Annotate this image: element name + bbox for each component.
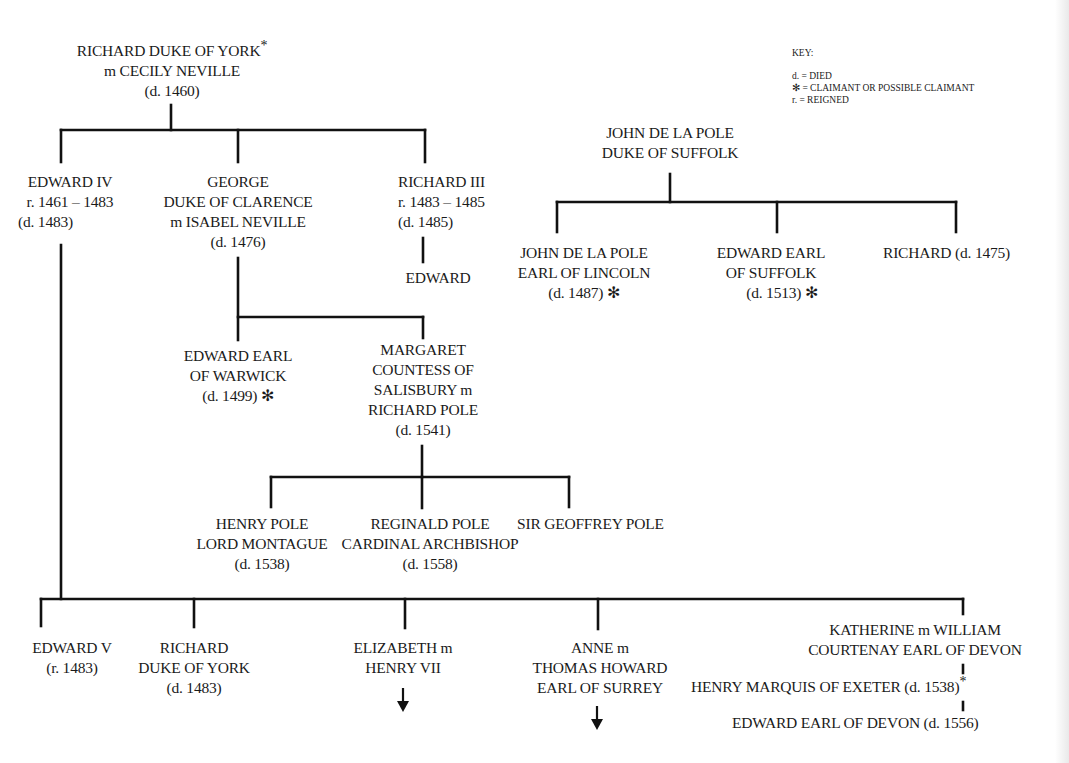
dates-line: (d. 1499) ✻ <box>164 386 312 406</box>
title-line: OF WARWICK <box>164 366 312 386</box>
name-line: EDWARD <box>394 268 482 288</box>
title-line: COUNTESS OF <box>348 360 498 380</box>
name-line: EDWARD V <box>20 638 124 658</box>
name-line: JOHN DE LA POLE <box>580 123 760 143</box>
spouse-line: HENRY VII <box>332 658 474 678</box>
spouse-line: m CECILY NEVILLE <box>60 61 284 81</box>
name-line: RICHARD DUKE OF YORK <box>77 42 261 59</box>
name-line: RICHARD <box>122 638 266 658</box>
reign-line: r. 1483 – 1485 <box>398 192 508 212</box>
title-line: DUKE OF YORK <box>122 658 266 678</box>
node-edward-v: EDWARD V (r. 1483) <box>20 638 124 678</box>
node-richard-duke-of-york: RICHARD DUKE OF YORK* m CECILY NEVILLE (… <box>60 41 284 101</box>
name-line: ANNE m <box>520 638 680 658</box>
name-line: MARGARET <box>348 340 498 360</box>
node-john-de-la-pole-earl-of-lincoln: JOHN DE LA POLE EARL OF LINCOLN (d. 1487… <box>504 243 664 303</box>
dates-line: (d. 1513) ✻ <box>696 283 846 303</box>
title-line: SALISBURY m <box>348 380 498 400</box>
node-richard-iii: RICHARD III r. 1483 – 1485 (d. 1485) <box>398 172 508 232</box>
dates-line: (d. 1487) ✻ <box>504 283 664 303</box>
spouse-line: m ISABEL NEVILLE <box>140 212 336 232</box>
node-henry-marquis-of-exeter: HENRY MARQUIS OF EXETER (d. 1538)* <box>691 677 1061 697</box>
name-line: EDWARD EARL <box>696 243 846 263</box>
name-line: GEORGE <box>140 172 336 192</box>
name-line: JOHN DE LA POLE <box>504 243 664 263</box>
spouse-line: RICHARD POLE <box>348 400 498 420</box>
reign-line: (r. 1483) <box>20 658 124 678</box>
name-line: RICHARD (d. 1475) <box>883 243 1063 263</box>
dates-line: (d. 1483) <box>18 212 126 232</box>
name-line: KATHERINE m WILLIAM <box>770 620 1060 640</box>
node-reginald-pole: REGINALD POLE CARDINAL ARCHBISHOP (d. 15… <box>340 514 520 574</box>
name-line: EDWARD EARL OF DEVON (d. 1556) <box>732 713 1062 733</box>
title-line: DUKE OF SUFFOLK <box>580 143 760 163</box>
node-katherine-of-york: KATHERINE m WILLIAM COURTENAY EARL OF DE… <box>770 620 1060 660</box>
dates-line: (d. 1476) <box>140 232 336 252</box>
spouse-line: THOMAS HOWARD <box>520 658 680 678</box>
name-line: ELIZABETH m <box>332 638 474 658</box>
node-margaret-countess-of-salisbury: MARGARET COUNTESS OF SALISBURY m RICHARD… <box>348 340 498 440</box>
dates-line: (d. 1541) <box>348 420 498 440</box>
node-richard-duke-of-york-prince: RICHARD DUKE OF YORK (d. 1483) <box>122 638 266 698</box>
title-line: DUKE OF CLARENCE <box>140 192 336 212</box>
node-anne-of-york: ANNE m THOMAS HOWARD EARL OF SURREY <box>520 638 680 698</box>
node-richard-de-la-pole: RICHARD (d. 1475) <box>883 243 1063 263</box>
reign-line: r. 1461 – 1483 <box>14 192 126 212</box>
node-edward-earl-of-devon: EDWARD EARL OF DEVON (d. 1556) <box>732 713 1062 733</box>
down-arrow-icon <box>397 701 409 712</box>
name-line: EDWARD EARL <box>164 346 312 366</box>
node-elizabeth-of-york: ELIZABETH m HENRY VII <box>332 638 474 678</box>
spouse-line: COURTENAY EARL OF DEVON <box>770 640 1060 660</box>
node-henry-pole: HENRY POLE LORD MONTAGUE (d. 1538) <box>176 514 348 574</box>
node-john-de-la-pole-duke-of-suffolk: JOHN DE LA POLE DUKE OF SUFFOLK <box>580 123 760 163</box>
node-edward-son-of-richard-iii: EDWARD <box>394 268 482 288</box>
legend-item-claimant: ✻ = CLAIMANT OR POSSIBLE CLAIMANT <box>792 82 974 94</box>
title-line: EARL OF LINCOLN <box>504 263 664 283</box>
title-line: OF SUFFOLK <box>696 263 846 283</box>
name-line: HENRY MARQUIS OF EXETER (d. 1538) <box>691 678 959 695</box>
claimant-star-icon: * <box>260 38 267 53</box>
title-line: EARL OF SURREY <box>520 678 680 698</box>
dates-line: (d. 1538) <box>176 554 348 574</box>
title-line: CARDINAL ARCHBISHOP <box>340 534 520 554</box>
node-sir-geoffrey-pole: SIR GEOFFREY POLE <box>517 514 737 534</box>
name-line: RICHARD III <box>398 172 508 192</box>
dates-line: (d. 1558) <box>340 554 520 574</box>
legend: KEY: d. = DIED ✻ = CLAIMANT OR POSSIBLE … <box>792 47 974 106</box>
dates-line: (d. 1483) <box>122 678 266 698</box>
name-line: HENRY POLE <box>176 514 348 534</box>
legend-title: KEY: <box>792 47 974 59</box>
legend-item-reigned: r. = REIGNED <box>792 94 974 106</box>
name-line: REGINALD POLE <box>340 514 520 534</box>
dates-line: (d. 1460) <box>60 81 284 101</box>
down-arrow-icon <box>591 719 603 730</box>
dates-line: (d. 1485) <box>398 212 508 232</box>
node-edward-iv: EDWARD IV r. 1461 – 1483 (d. 1483) <box>14 172 126 232</box>
node-edward-earl-of-warwick: EDWARD EARL OF WARWICK (d. 1499) ✻ <box>164 346 312 406</box>
node-george-duke-of-clarence: GEORGE DUKE OF CLARENCE m ISABEL NEVILLE… <box>140 172 336 252</box>
name-line: SIR GEOFFREY POLE <box>517 514 737 534</box>
legend-item-died: d. = DIED <box>792 70 974 82</box>
name-line: EDWARD IV <box>14 172 126 192</box>
node-edward-earl-of-suffolk: EDWARD EARL OF SUFFOLK (d. 1513) ✻ <box>696 243 846 303</box>
claimant-star-icon: * <box>959 674 966 689</box>
title-line: LORD MONTAGUE <box>176 534 348 554</box>
